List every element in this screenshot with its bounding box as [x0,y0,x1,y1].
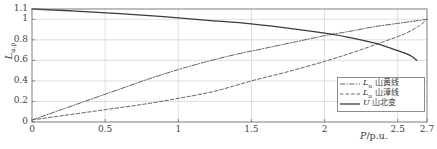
plot-canvas [0,0,437,149]
x-axis-label-unit: /p.u. [366,130,387,141]
legend-item-u-shanbei: U 山北变 [340,99,422,109]
legend-symbol: U [363,98,370,107]
x-axis-label: P/p.u. [360,130,388,141]
x-tick-label: 0 [18,124,46,134]
chart-legend: Lu 山黄线 Lu 山漳线 U 山北变 [337,77,425,112]
y-axis-label: Lu.p [3,28,17,74]
x-tick-label: 2.7 [413,124,437,134]
y-axis-label-symbol: L [3,53,14,59]
y-tick-label: 0.2 [0,95,28,105]
y-tick-label: 0.4 [0,75,28,85]
x-tick-label: 2 [311,124,339,134]
legend-name: 山北变 [370,98,397,107]
legend-name: 山漳线 [372,88,399,97]
legend-swatch-solid [340,100,360,108]
legend-swatch-dashdot [340,80,360,88]
legend-swatch-dashed [340,90,360,98]
legend-label-u-shanbei: U 山北变 [363,98,396,110]
x-tick-label: 1 [164,124,192,134]
y-axis-label-subscript: u.p [9,43,17,53]
x-tick-label: 2.5 [384,124,412,134]
x-tick-label: 1.5 [237,124,265,134]
legend-name: 山黄线 [372,78,399,87]
y-tick-label: 1.1 [0,3,28,13]
y-tick-label: 1 [0,13,28,23]
chart-figure: 00.20.40.60.811.1 00.511.522.52.7 Lu.p P… [0,0,437,149]
x-tick-label: 0.5 [91,124,119,134]
